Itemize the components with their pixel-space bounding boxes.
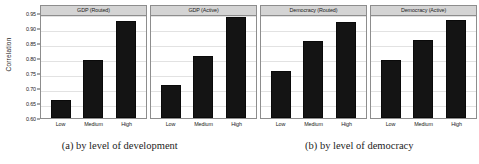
bar-group (371, 16, 476, 118)
x-axis-tick-label: Medium (411, 121, 437, 127)
bar-group (151, 16, 256, 118)
y-axis-label: Correlation (5, 23, 12, 87)
y-axis-tick-label: 0.80 (26, 56, 36, 62)
y-axis-tick-label: 0.65 (26, 101, 36, 107)
panel-plot-area (150, 15, 257, 119)
x-axis-tick-label: High (224, 121, 250, 127)
caption-b: (b) by level of democracy (240, 133, 479, 159)
x-axis-tick-label: Medium (191, 121, 217, 127)
bar (226, 17, 246, 118)
bar-group (261, 16, 366, 118)
y-axis-tick-label: 0.75 (26, 71, 36, 77)
panel-row: GDP (Routed)LowMediumHighGDP (Active)Low… (40, 5, 477, 132)
x-axis-tick-label: Low (268, 121, 294, 127)
figure-container: Correlation 0.600.650.700.750.800.850.90… (0, 0, 479, 164)
bar (303, 41, 323, 118)
x-axis-tick-label: High (444, 121, 470, 127)
caption-a: (a) by level of development (0, 133, 240, 159)
caption-row: (a) by level of development (b) by level… (0, 133, 479, 159)
y-axis-tick-label: 0.60 (26, 116, 36, 122)
x-axis: LowMediumHigh (40, 119, 147, 132)
x-axis-tick-label: Medium (301, 121, 327, 127)
bar (336, 22, 356, 118)
bar (413, 40, 433, 118)
panel-title: GDP (Active) (150, 5, 257, 15)
y-axis-tick-label: 0.70 (26, 86, 36, 92)
bar (161, 85, 181, 118)
y-axis-tick-label: 0.85 (26, 41, 36, 47)
bar (116, 21, 136, 119)
bar (271, 71, 291, 118)
x-axis-tick-label: Low (378, 121, 404, 127)
panel-plot-area (40, 15, 147, 119)
bar (83, 60, 103, 118)
bar (381, 60, 401, 118)
bar (446, 20, 466, 118)
y-axis: 0.600.650.700.750.800.850.900.95 (14, 5, 40, 132)
bar (193, 56, 213, 118)
chart-panel: Democracy (Active)LowMediumHigh (370, 5, 477, 132)
panel-title: GDP (Routed) (40, 5, 147, 15)
chart-panel: Democracy (Routed)LowMediumHigh (260, 5, 367, 132)
panel-plot-area (260, 15, 367, 119)
panel-plot-area (370, 15, 477, 119)
chart-plot-block: Correlation 0.600.650.700.750.800.850.90… (0, 5, 479, 132)
chart-panel: GDP (Active)LowMediumHigh (150, 5, 257, 132)
panel-title: Democracy (Active) (370, 5, 477, 15)
x-axis-tick-label: High (114, 121, 140, 127)
x-axis-tick-label: High (334, 121, 360, 127)
y-axis-tick-label: 0.90 (26, 26, 36, 32)
bar-group (41, 16, 146, 118)
y-axis-tick-label: 0.95 (26, 11, 36, 17)
x-axis-tick-label: Medium (81, 121, 107, 127)
x-axis: LowMediumHigh (370, 119, 477, 132)
chart-panel: GDP (Routed)LowMediumHigh (40, 5, 147, 132)
bar (51, 100, 71, 118)
x-axis: LowMediumHigh (260, 119, 367, 132)
x-axis-tick-label: Low (158, 121, 184, 127)
x-axis-tick-label: Low (48, 121, 74, 127)
x-axis: LowMediumHigh (150, 119, 257, 132)
panel-title: Democracy (Routed) (260, 5, 367, 15)
